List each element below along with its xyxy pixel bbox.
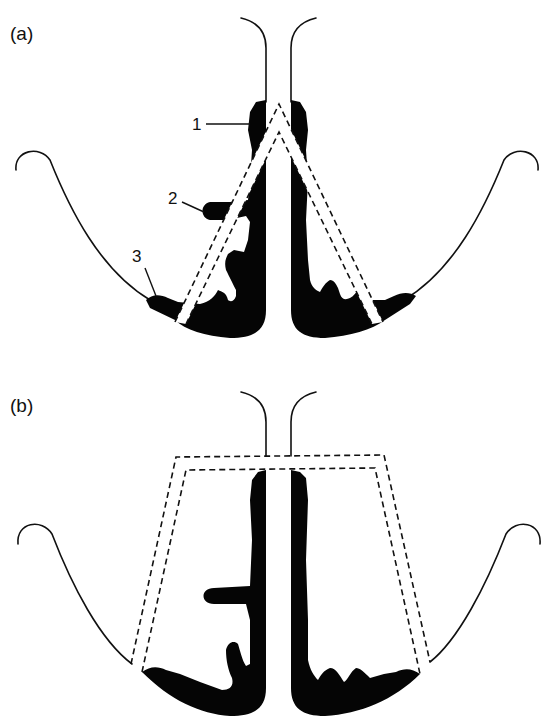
diagram-figure: (a) 1 2 3 (b) [0, 0, 554, 728]
right-outer-wall-b [430, 524, 540, 662]
left-deposit-b [142, 470, 266, 716]
panel-label-b: (b) [10, 395, 33, 416]
panel-label-a: (a) [10, 23, 33, 44]
left-outer-wall-b [18, 524, 132, 664]
callout-2-leader [182, 202, 204, 212]
panel-a: (a) 1 2 3 [10, 18, 538, 338]
panel-b: (b) [10, 392, 540, 716]
callout-3-label: 3 [132, 247, 141, 266]
callout-2-label: 2 [168, 189, 177, 208]
right-stem-line-b [291, 392, 316, 456]
callout-3-leader [145, 268, 156, 296]
left-stem-line-b [241, 392, 266, 456]
left-stem-line [241, 18, 266, 102]
trapezoid-inner-dash [142, 468, 420, 674]
right-deposit [291, 100, 416, 338]
left-outer-wall [16, 151, 175, 312]
right-deposit-b [291, 470, 420, 716]
trapezoid-outer-dash [131, 455, 430, 664]
wedge-inner-dash [186, 132, 372, 324]
right-stem-line [291, 18, 316, 102]
callout-1-label: 1 [192, 115, 201, 134]
left-deposit [146, 100, 266, 338]
right-outer-wall [380, 151, 538, 312]
